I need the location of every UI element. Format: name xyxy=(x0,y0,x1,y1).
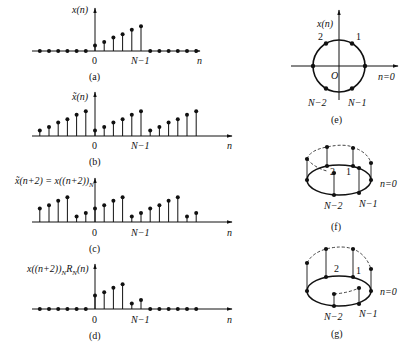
stem-point xyxy=(121,32,125,36)
stem-point xyxy=(93,207,97,211)
stem-point xyxy=(111,36,115,40)
panel-caption: (c) xyxy=(89,243,100,255)
stem-point xyxy=(148,128,152,132)
stem-point xyxy=(176,117,180,121)
stem-point xyxy=(148,49,152,53)
stem-point xyxy=(148,207,152,211)
stem-point xyxy=(194,211,198,215)
x-axis-label: n xyxy=(227,314,232,325)
stem-point xyxy=(75,113,79,117)
stem-point xyxy=(84,49,88,53)
point-n0 xyxy=(363,64,367,68)
stem-point xyxy=(130,113,134,117)
label-2: 2 xyxy=(318,31,323,42)
stem-point xyxy=(130,301,134,305)
stem-point xyxy=(47,125,51,129)
stem-point xyxy=(194,49,198,53)
label-n-minus-2: N−2 xyxy=(307,97,326,108)
stem-point xyxy=(157,125,161,129)
stem-point xyxy=(121,117,125,121)
stem-point xyxy=(84,109,88,113)
figure-canvas: x(n) n 0 N−1 (a) x̃(n) n 0 N−1 (b) x̃(n+… xyxy=(0,0,406,354)
point-n1 xyxy=(350,41,354,45)
stem-point xyxy=(38,207,42,211)
stem-point xyxy=(185,113,189,117)
inner-dashed-curve xyxy=(334,288,359,294)
stem-point xyxy=(130,214,134,218)
stem-point xyxy=(102,40,106,44)
tick-n-minus-1: N−1 xyxy=(130,55,149,66)
label-n-minus-1: N−1 xyxy=(358,198,377,209)
x-axis-label: n xyxy=(227,140,232,151)
stem-point xyxy=(84,211,88,215)
stem-point xyxy=(102,290,106,294)
label-n0: n=0 xyxy=(378,71,395,82)
tick-n-minus-1: N−1 xyxy=(130,314,149,325)
stem-point xyxy=(56,307,60,311)
stem-point xyxy=(65,49,69,53)
panel-caption: (g) xyxy=(331,328,343,340)
label-2: 2 xyxy=(334,263,339,274)
label-n-minus-2: N−2 xyxy=(323,311,342,322)
stem-point xyxy=(47,307,51,311)
stem-point xyxy=(176,49,180,53)
stem-point xyxy=(111,199,115,203)
stem-point xyxy=(139,298,143,302)
stem-point xyxy=(167,307,171,311)
point-n2 xyxy=(324,41,328,45)
stem-point xyxy=(38,307,42,311)
y-axis-label: x̃(n) xyxy=(71,91,89,103)
panel-f: 2 1 n=0 N−2 N−1 (f) xyxy=(305,145,397,233)
stem-point xyxy=(93,43,97,47)
x-axis-label: n xyxy=(197,55,202,66)
stem-point xyxy=(148,307,152,311)
panel-b: x̃(n) n 0 N−1 (b) xyxy=(32,91,232,168)
stem-point xyxy=(102,203,106,207)
panel-caption: (b) xyxy=(89,156,101,168)
stem-point xyxy=(65,117,69,121)
stem-point xyxy=(75,307,79,311)
y-axis-label: x(n) xyxy=(71,4,89,16)
label-1: 1 xyxy=(356,265,361,276)
stem-series xyxy=(38,24,198,53)
stem-point xyxy=(84,307,88,311)
stem-point xyxy=(157,307,161,311)
stem-point xyxy=(167,199,171,203)
stem-point xyxy=(38,49,42,53)
stem-point xyxy=(185,49,189,53)
panel-a: x(n) n 0 N−1 (a) xyxy=(32,4,202,83)
tick-n-minus-1: N−1 xyxy=(130,140,149,151)
stem-point xyxy=(93,294,97,298)
stem-point xyxy=(65,307,69,311)
stem-point xyxy=(65,195,69,199)
y-axis-label: x̃(n+2) = x((n+2))N xyxy=(14,175,94,189)
stem-point xyxy=(47,49,51,53)
stem-point xyxy=(56,49,60,53)
stem-point xyxy=(56,199,60,203)
stem-point xyxy=(185,307,189,311)
stem-point xyxy=(139,211,143,215)
panel-c: x̃(n+2) = x((n+2))N n 0 N−1 (c) xyxy=(14,175,232,255)
point-nm1 xyxy=(350,86,354,90)
stem-point xyxy=(111,286,115,290)
label-2: 2 xyxy=(330,166,335,177)
point-nm2 xyxy=(324,86,328,90)
sample-points xyxy=(305,247,373,308)
stem-point xyxy=(176,195,180,199)
label-n0: n=0 xyxy=(380,178,397,189)
stem-point xyxy=(102,125,106,129)
stem-point xyxy=(130,28,134,32)
y-axis-label: x((n+2))NRN(n) xyxy=(26,263,89,277)
label-n0: n=0 xyxy=(380,286,397,297)
top-dashed-curve xyxy=(307,247,371,269)
point-n3 xyxy=(311,64,315,68)
top-dashed-curve xyxy=(307,145,371,163)
stem-point xyxy=(38,128,42,132)
base-ellipse xyxy=(307,276,371,306)
tick-zero: 0 xyxy=(92,140,97,151)
stem-point xyxy=(121,195,125,199)
stem-point xyxy=(56,121,60,125)
label-n-minus-1: N−1 xyxy=(358,308,377,319)
origin-label: O xyxy=(331,70,338,81)
y-axis-label: x(n) xyxy=(316,18,334,30)
